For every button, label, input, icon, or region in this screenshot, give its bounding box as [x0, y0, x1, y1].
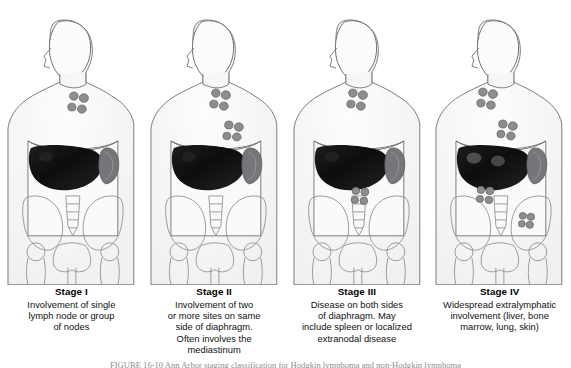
caption-stage-1: Stage I Involvement of single lymph node…	[0, 286, 143, 356]
stage-description-3: Disease on both sides of diaphragm. May …	[289, 299, 426, 345]
staging-panel-stage-1	[0, 0, 143, 285]
caption-stage-4: Stage IV Widespread extralymphatic invol…	[428, 286, 571, 356]
stage-title-3: Stage III	[289, 286, 426, 299]
stage-title-2: Stage II	[146, 286, 283, 299]
stage-description-2: Involvement of two or more sites on same…	[146, 299, 283, 356]
stage-title-4: Stage IV	[431, 286, 568, 299]
staging-panel-stage-2	[143, 0, 286, 285]
stage-description-1: Involvement of single lymph node or grou…	[3, 299, 140, 333]
figure-source-note: FIGURE 16-10 Ann Arbor staging classific…	[0, 360, 571, 368]
staging-panel-row	[0, 0, 571, 285]
caption-stage-3: Stage III Disease on both sides of diaph…	[286, 286, 429, 356]
staging-caption-row: Stage I Involvement of single lymph node…	[0, 286, 571, 356]
stage-title-1: Stage I	[3, 286, 140, 299]
staging-panel-stage-3	[286, 0, 429, 285]
caption-stage-2: Stage II Involvement of two or more site…	[143, 286, 286, 356]
staging-panel-stage-4	[428, 0, 571, 285]
lymphoma-staging-figure: Stage I Involvement of single lymph node…	[0, 0, 571, 368]
stage-description-4: Widespread extralymphatic involvement (l…	[431, 299, 568, 333]
